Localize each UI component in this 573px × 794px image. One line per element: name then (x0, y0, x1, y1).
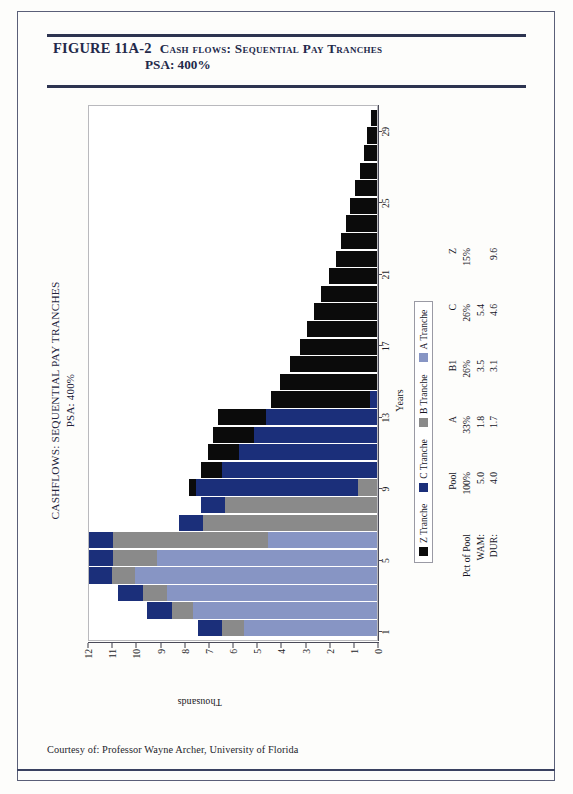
bar-segment (172, 603, 194, 619)
bar-column (89, 374, 377, 390)
bar-column (89, 303, 377, 319)
value-tick-mark (233, 643, 234, 648)
value-tick-label: 4 (276, 643, 287, 683)
bar-column (89, 198, 377, 214)
legend-label: Z Tranche (418, 504, 429, 543)
bar-segment (314, 303, 377, 319)
value-tick-mark (257, 643, 258, 648)
stats-cell: 1.8 (474, 412, 488, 468)
bar-segment (360, 163, 377, 179)
bar-segment (135, 567, 377, 583)
bar-segment (290, 356, 377, 372)
bar-segment (89, 567, 112, 583)
category-tick-label: 17 (380, 341, 391, 351)
bar-column (89, 180, 377, 196)
stats-cell: 5.0 (474, 468, 488, 524)
bar-column (89, 497, 377, 513)
bar-segment (218, 409, 266, 425)
bar-segment (321, 286, 377, 302)
bar-segment (364, 145, 377, 161)
chart-region: CASHFLOWS: SEQUENTIAL PAY TRANCHES PSA: … (22, 88, 527, 713)
bar-segment (271, 391, 370, 407)
bar-segment (225, 497, 377, 513)
value-tick-label: 3 (300, 643, 311, 683)
bar-series-container (89, 106, 377, 640)
chart-legend: Z TrancheC TrancheB TrancheA Tranche (414, 301, 433, 563)
bar-segment (213, 427, 254, 443)
figure-subtitle: PSA: 400% (145, 58, 523, 73)
legend-label: C Tranche (418, 439, 429, 479)
bar-column (89, 251, 377, 267)
stats-row: DUR:4.01.73.14.69.6 (487, 244, 501, 610)
value-axis: 0123456789101112 (88, 643, 378, 683)
stats-cell: 26% (460, 356, 474, 412)
bar-column (89, 268, 377, 284)
category-tick-label: 29 (380, 127, 391, 137)
bar-segment (157, 550, 377, 566)
bar-column (89, 620, 377, 636)
bar-column (89, 479, 377, 495)
category-tick-label: 21 (380, 270, 391, 280)
bar-segment (307, 321, 377, 337)
bar-column (89, 462, 377, 478)
stats-cell: 100% (460, 468, 474, 524)
plot-area (88, 105, 378, 641)
bar-column (89, 145, 377, 161)
bar-column (89, 427, 377, 443)
category-tick-mark (378, 488, 382, 489)
bar-segment (203, 515, 377, 531)
bar-column (89, 321, 377, 337)
chart-rotated-canvas: CASHFLOWS: SEQUENTIAL PAY TRANCHES PSA: … (22, 88, 527, 713)
category-tick-label: 25 (380, 198, 391, 208)
bar-segment (113, 532, 269, 548)
figure-page: FIGURE 11A-2Cash flows: Sequential Pay T… (0, 0, 573, 794)
bar-column (89, 339, 377, 355)
bar-segment (167, 585, 377, 601)
bar-segment (89, 550, 113, 566)
bar-segment (222, 462, 377, 478)
value-tick-label: 9 (155, 643, 166, 683)
bar-column (89, 233, 377, 249)
value-tick-label: 0 (373, 643, 384, 683)
bar-column (89, 391, 377, 407)
bar-column (89, 567, 377, 583)
bar-segment (268, 532, 377, 548)
value-tick-mark (136, 643, 137, 648)
bar-segment (113, 550, 158, 566)
category-tick-mark (378, 560, 382, 561)
stats-header-row: PoolAB1CZ (446, 244, 460, 610)
stats-cell: 4.6 (487, 300, 501, 356)
value-tick-label: 8 (179, 643, 190, 683)
stats-cell: 1.7 (487, 412, 501, 468)
bar-segment (147, 603, 171, 619)
bar-segment (350, 198, 377, 214)
legend-swatch (419, 353, 428, 362)
value-axis-line (88, 642, 379, 643)
legend-item: C Tranche (418, 439, 429, 492)
legend-item: B Tranche (418, 374, 429, 427)
legend-swatch (419, 547, 428, 556)
value-tick-mark (329, 643, 330, 648)
bar-segment (143, 585, 167, 601)
stats-cell: 9.6 (487, 244, 501, 300)
bar-segment (300, 339, 377, 355)
stats-cell: 5.4 (474, 300, 488, 356)
legend-label: A Tranche (418, 310, 429, 350)
stats-row: Pct of Pool100%33%26%26%15% (460, 244, 474, 610)
value-tick-mark (184, 643, 185, 648)
bar-segment (198, 620, 222, 636)
bar-column (89, 550, 377, 566)
bar-segment (201, 497, 225, 513)
value-tick-mark (112, 643, 113, 648)
bar-column (89, 515, 377, 531)
category-axis-label: Years (394, 88, 405, 713)
value-tick-mark (353, 643, 354, 648)
category-tick-mark (378, 345, 382, 346)
bar-segment (355, 180, 377, 196)
value-tick-mark (160, 643, 161, 648)
category-tick-label: 13 (380, 413, 391, 423)
bar-segment (341, 233, 377, 249)
stats-cell: 15% (460, 244, 474, 300)
legend-label: B Tranche (418, 374, 429, 414)
bar-column (89, 110, 377, 126)
